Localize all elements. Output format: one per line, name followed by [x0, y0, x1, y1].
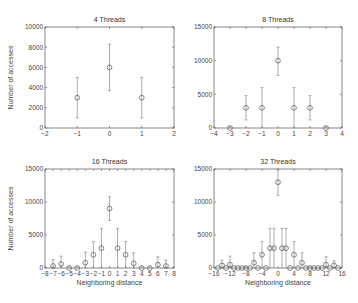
y-tick-label: 0	[39, 124, 43, 131]
x-tick-label: 1	[116, 270, 120, 277]
x-tick-label: 4	[340, 130, 344, 137]
x-tick-label: −8	[242, 270, 250, 277]
x-tick-label: 3	[324, 130, 328, 137]
y-tick-label: 6000	[29, 64, 44, 71]
x-axis-label: Neighboring distance	[77, 279, 143, 287]
x-tick-label: −3	[82, 270, 90, 277]
chart-title: 8 Threads	[262, 16, 294, 23]
x-tick-label: 5	[148, 270, 152, 277]
figure: 4 Threads−2−10120200040006000800010000Nu…	[0, 0, 358, 303]
x-tick-label: −12	[224, 270, 235, 277]
y-axis-label: Number of accesses	[7, 45, 14, 109]
subplot-32-threads: 32 Threads−16−12−8−404812160500010000150…	[194, 158, 346, 287]
x-tick-label: −2	[90, 270, 98, 277]
subplot-16-threads: 16 Threads−8−7−6−5−4−3−2−101234567805000…	[7, 158, 176, 287]
x-tick-label: 4	[140, 270, 144, 277]
x-tick-label: 3	[132, 270, 136, 277]
x-tick-label: 1	[140, 130, 144, 137]
y-tick-label: 2000	[29, 104, 44, 111]
y-tick-label: 10000	[25, 23, 43, 30]
x-tick-label: 6	[156, 270, 160, 277]
x-tick-label: 0	[108, 270, 112, 277]
chart-title: 16 Threads	[92, 158, 128, 165]
y-tick-label: 0	[208, 124, 212, 131]
y-tick-label: 4000	[29, 84, 44, 91]
x-tick-label: 2	[172, 130, 176, 137]
chart-title: 32 Threads	[260, 158, 296, 165]
x-tick-label: 7	[164, 270, 168, 277]
x-tick-label: −4	[258, 270, 266, 277]
x-tick-label: −5	[65, 270, 73, 277]
y-tick-label: 5000	[198, 91, 213, 98]
y-tick-label: 10000	[194, 57, 212, 64]
x-tick-label: 8	[172, 270, 176, 277]
y-tick-label: 0	[39, 264, 43, 271]
y-tick-label: 5000	[198, 231, 213, 238]
x-tick-label: 8	[308, 270, 312, 277]
x-tick-label: 0	[108, 130, 112, 137]
x-tick-label: 2	[308, 130, 312, 137]
chart-title: 4 Threads	[94, 16, 126, 23]
y-tick-label: 15000	[194, 165, 212, 172]
y-tick-label: 15000	[25, 165, 43, 172]
y-tick-label: 5000	[29, 231, 44, 238]
x-tick-label: 0	[276, 270, 280, 277]
y-tick-label: 0	[208, 264, 212, 271]
y-tick-label: 8000	[29, 44, 44, 51]
y-tick-label: 15000	[194, 23, 212, 30]
subplot-4-threads: 4 Threads−2−10120200040006000800010000Nu…	[7, 16, 176, 137]
x-tick-label: 0	[276, 130, 280, 137]
x-tick-label: −7	[49, 270, 57, 277]
x-tick-label: 4	[292, 270, 296, 277]
y-tick-label: 10000	[194, 198, 212, 205]
axes-box	[214, 27, 342, 128]
x-tick-label: −1	[74, 130, 82, 137]
x-axis-label: Neighboring distance	[245, 279, 311, 287]
x-tick-label: −4	[74, 270, 82, 277]
x-tick-label: −3	[226, 130, 234, 137]
x-tick-label: −1	[258, 130, 266, 137]
y-axis-label: Number of accesses	[7, 186, 14, 250]
x-tick-label: 16	[338, 270, 346, 277]
x-tick-label: 12	[322, 270, 330, 277]
x-tick-label: −6	[57, 270, 65, 277]
x-tick-label: −2	[242, 130, 250, 137]
x-tick-label: 2	[124, 270, 128, 277]
y-tick-label: 10000	[25, 198, 43, 205]
subplot-8-threads: 8 Threads−4−3−2−101234050001000015000	[194, 16, 344, 137]
x-tick-label: −1	[98, 270, 106, 277]
x-tick-label: 1	[292, 130, 296, 137]
